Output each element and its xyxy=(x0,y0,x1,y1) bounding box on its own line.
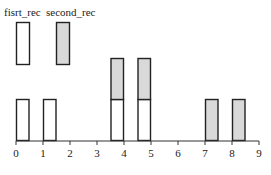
plot-area xyxy=(17,59,246,141)
bar-fisrt-rec xyxy=(17,100,30,141)
legend-label: fisrt_rec xyxy=(4,6,41,18)
x-tick-label: 8 xyxy=(229,147,235,159)
x-tick-label: 4 xyxy=(121,147,127,159)
x-tick-label: 3 xyxy=(94,147,100,159)
x-axis: 0123456789 xyxy=(13,141,262,159)
bar-chart: 0123456789 fisrt_recsecond_rec xyxy=(0,0,271,175)
legend-label: second_rec xyxy=(46,6,96,18)
bar-fisrt-rec xyxy=(138,100,151,141)
x-tick-label: 6 xyxy=(175,147,181,159)
legend-swatch xyxy=(57,23,70,65)
x-tick-label: 0 xyxy=(13,147,19,159)
bar-second-rec xyxy=(206,100,219,141)
x-tick-label: 2 xyxy=(67,147,73,159)
legend-swatch xyxy=(17,23,30,65)
bar-second-rec xyxy=(233,100,246,141)
bar-fisrt-rec xyxy=(111,100,124,141)
legend: fisrt_recsecond_rec xyxy=(4,6,96,65)
x-tick-label: 5 xyxy=(148,147,154,159)
x-tick-label: 9 xyxy=(256,147,262,159)
bar-fisrt-rec xyxy=(44,100,57,141)
x-tick-label: 7 xyxy=(202,147,208,159)
bar-second-rec xyxy=(111,59,124,100)
bar-second-rec xyxy=(138,59,151,100)
x-tick-label: 1 xyxy=(40,147,46,159)
